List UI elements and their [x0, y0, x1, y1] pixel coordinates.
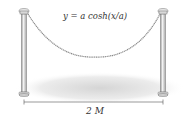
ground-shadow: [15, 72, 185, 104]
catenary-diagram: y = a cosh(x/a) 2 M: [0, 0, 190, 123]
equation-label: y = a cosh(x/a): [62, 11, 127, 21]
span-label: 2 M: [85, 106, 105, 116]
